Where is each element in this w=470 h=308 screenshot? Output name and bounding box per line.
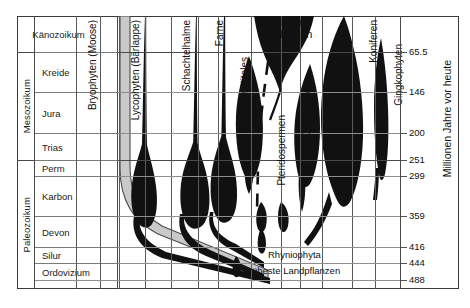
age-axis-title: Millionen Jahre vor heute [441, 60, 453, 177]
taxon-label-6: Pteridospermen [277, 115, 287, 186]
age-tick-label-146: 146 [409, 86, 425, 97]
farne-silhouette [211, 16, 237, 223]
rhyniophyta-lower-leaf [256, 202, 267, 232]
stratigraphic-rule-base [35, 280, 400, 281]
age-tick-label-488: 488 [409, 274, 425, 285]
eon-label: Mesozoikum [21, 79, 32, 133]
age-tick-label-359: 359 [409, 210, 425, 221]
stratigraphic-rule-416 [118, 247, 400, 248]
lane-separator-1 [100, 16, 101, 289]
age-tick-label-444: 444 [409, 257, 425, 268]
taxon-label-8: Koniferen [369, 20, 379, 63]
age-tick-mark-299 [401, 176, 407, 177]
lane-separator-5 [198, 16, 199, 289]
lane-separator-4 [171, 16, 172, 289]
stratigraphic-rule-359 [118, 216, 400, 217]
age-tick-mark-359 [401, 216, 407, 217]
stratigraphic-rule-146 [118, 92, 400, 93]
taxon-label-0: Bryophyten (Moose) [88, 20, 98, 110]
period-label: Perm [35, 163, 65, 174]
age-tick-mark-146 [401, 92, 407, 93]
age-tick-mark-200 [401, 133, 407, 134]
age-tick-label-200: 200 [409, 127, 425, 138]
age-tick-mark-251 [401, 160, 407, 161]
period-label: Jura [35, 108, 60, 119]
period-label: Kreide [35, 67, 69, 78]
lane-separator-7 [251, 16, 252, 289]
age-tick-mark-488 [401, 280, 407, 281]
stratigraphic-rule-299 [118, 176, 400, 177]
stratigraphic-rule-65.5 [118, 52, 400, 53]
period-cell-0: Känozoikum [17, 17, 118, 52]
age-tick-label-416: 416 [409, 241, 425, 252]
annotation-frueheste-landpflanzen: Früheste Landpflanzen [243, 265, 340, 276]
age-tick-mark-65.5 [401, 52, 407, 53]
lane-separator-6 [218, 16, 219, 289]
pteridospermen-origin-leaf [278, 202, 289, 232]
stratigraphic-rule-200 [118, 133, 400, 134]
taxon-label-7: Cycadeen [302, 92, 312, 137]
lane-separator-11 [352, 16, 353, 289]
period-label: Devon [35, 227, 69, 238]
bluetenpflanzen-label-line2: Pflanzen [252, 29, 330, 41]
taxon-label-1: Lycophyten (Bärlappe) [131, 20, 141, 120]
bluetenpflanzen-label: Blüten- Pflanzen [252, 17, 330, 40]
age-tick-mark-444 [401, 263, 407, 264]
lane-separator-0 [76, 16, 77, 289]
stratigraphic-rule-251 [118, 160, 400, 161]
age-tick-label-65.5: 65.5 [409, 46, 428, 57]
period-label: Silur [35, 250, 61, 261]
lane-separator-2 [119, 16, 120, 289]
annotation-rhyniophyta: Rhyniophyta [268, 249, 321, 260]
lane-separator-10 [322, 16, 323, 289]
koniferen-root-tail [304, 192, 332, 246]
age-tick-label-299: 299 [409, 170, 425, 181]
taxon-label-2: Schachtelhalme [182, 20, 192, 91]
eon-label: Paleozoikum [21, 197, 32, 253]
period-label: Karbon [35, 191, 73, 202]
koniferen-silhouette [321, 16, 363, 207]
period-label: Ordovizium [35, 267, 90, 278]
taxon-label-3: Farne [215, 20, 225, 46]
eon-cell-2: Paleozoikum [17, 160, 35, 288]
eon-column: KänozoikumMesozoikumPaleozoikum [17, 16, 35, 289]
stratigraphic-rule-444 [118, 263, 400, 264]
spindle-silhouettes [118, 16, 400, 289]
age-tick-mark-416 [401, 247, 407, 248]
age-tick-label-251: 251 [409, 154, 425, 165]
figure-root: KänozoikumMesozoikumPaleozoikum Känozoik… [0, 0, 470, 308]
bluetenpflanzen-label-line1: Blüten- [252, 17, 330, 29]
period-label: Trias [35, 142, 63, 153]
eon-cell-1: Mesozoikum [17, 52, 35, 160]
spindle-plot-area [118, 16, 400, 289]
lane-separator-3 [145, 16, 146, 289]
gingkophyten-tail [373, 168, 379, 200]
taxon-label-4: Benetitales [240, 57, 250, 106]
